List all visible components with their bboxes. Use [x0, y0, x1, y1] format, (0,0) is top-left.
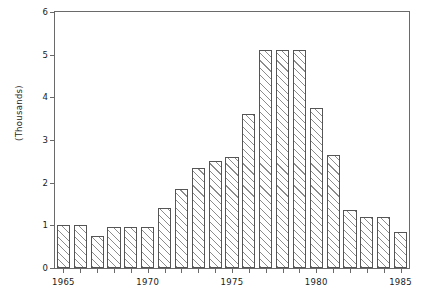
x-axis-tick-label: 1970	[136, 277, 159, 287]
x-axis-tick-label: 1980	[305, 277, 328, 287]
y-axis-tick-label: 0	[43, 263, 48, 273]
bar	[394, 232, 407, 268]
x-axis-tick	[266, 268, 267, 273]
x-axis-tick	[63, 268, 64, 273]
y-axis-tick	[50, 140, 55, 141]
bar	[209, 161, 222, 268]
y-axis-tick-label: 2	[43, 178, 48, 188]
x-axis-tick	[131, 268, 132, 273]
x-axis-tick	[232, 268, 233, 273]
x-axis-tick	[181, 268, 182, 273]
x-axis-tick	[165, 268, 166, 273]
y-axis-tick-label: 3	[43, 135, 48, 145]
y-axis-tick-label: 1	[43, 220, 48, 230]
x-axis-tick	[215, 268, 216, 273]
y-axis-tick	[50, 12, 55, 13]
y-axis-tick-label: 5	[43, 50, 48, 60]
bar-chart: (Thousands) 0123456 19651970197519801985	[0, 0, 427, 302]
x-axis-tick	[283, 268, 284, 273]
x-axis-tick	[148, 268, 149, 273]
x-axis-tick	[114, 268, 115, 273]
y-axis-tick-label: 4	[43, 92, 48, 102]
x-axis-tick	[249, 268, 250, 273]
y-axis-title: (Thousands)	[14, 58, 24, 168]
y-axis-tick	[50, 268, 55, 269]
bar	[107, 227, 120, 268]
bar	[276, 50, 289, 268]
x-axis-tick	[401, 268, 402, 273]
y-axis-tick	[50, 55, 55, 56]
bar	[377, 217, 390, 268]
bar	[343, 210, 356, 268]
x-axis-tick	[80, 268, 81, 273]
x-axis-tick	[367, 268, 368, 273]
bar	[327, 155, 340, 268]
y-axis-tick	[50, 183, 55, 184]
x-axis-tick-label: 1975	[221, 277, 244, 287]
bar	[192, 168, 205, 268]
bar	[91, 236, 104, 268]
y-axis-tick-label: 6	[43, 7, 48, 17]
bar	[242, 114, 255, 268]
plot-inner: 0123456 19651970197519801985	[55, 12, 409, 268]
bar	[360, 217, 373, 268]
x-axis-tick	[299, 268, 300, 273]
bar	[225, 157, 238, 268]
bar-series	[55, 12, 409, 268]
x-axis-tick	[316, 268, 317, 273]
bar	[74, 225, 87, 268]
x-axis-tick	[198, 268, 199, 273]
x-axis-tick	[333, 268, 334, 273]
x-axis-tick	[384, 268, 385, 273]
x-axis-tick-label: 1965	[52, 277, 75, 287]
plot-area: 0123456 19651970197519801985	[54, 11, 410, 269]
x-axis-tick-label: 1985	[389, 277, 412, 287]
x-axis-tick	[97, 268, 98, 273]
y-axis-tick	[50, 97, 55, 98]
bar	[141, 227, 154, 268]
bar	[124, 227, 137, 268]
bar	[259, 50, 272, 268]
bar	[158, 208, 171, 268]
bar	[57, 225, 70, 268]
bar	[293, 50, 306, 268]
y-axis-tick	[50, 225, 55, 226]
bar	[175, 189, 188, 268]
bar	[310, 108, 323, 268]
x-axis-tick	[350, 268, 351, 273]
